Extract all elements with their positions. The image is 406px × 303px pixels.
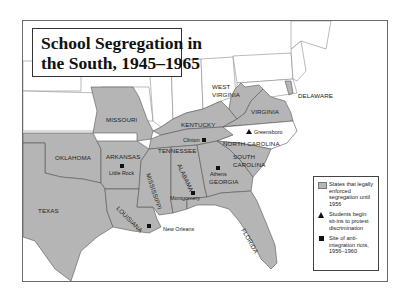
label-arkansas: ARKANSAS: [106, 153, 141, 160]
label-south-carolina-1: SOUTH: [233, 153, 255, 160]
triangle-icon: [318, 212, 324, 218]
city-montgomery: Montgomery: [170, 195, 200, 201]
legend-item-segregated: States that legally enforced segregation…: [318, 181, 375, 207]
label-georgia: GEORGIA: [209, 178, 239, 185]
city-little-rock: Little Rock: [109, 170, 134, 176]
label-virginia: VIRGINIA: [251, 108, 280, 115]
label-delaware: DELAWARE: [298, 92, 333, 99]
label-west-virginia-1: WEST: [212, 83, 230, 90]
gray-swatch-icon: [318, 182, 327, 189]
map-title: School Segregation in the South, 1945–19…: [32, 28, 182, 77]
title-line-2: the South, 1945–1965: [41, 53, 181, 73]
square-marker-icon: [216, 166, 220, 170]
label-oklahoma: OKLAHOMA: [55, 154, 92, 161]
label-north-carolina: NORTH CAROLINA: [223, 140, 280, 147]
label-kentucky: KENTUCKY: [181, 121, 216, 128]
map-legend: States that legally enforced segregation…: [313, 176, 379, 271]
legend-item-sit-ins: Students begin sit-ins to protest discri…: [318, 211, 375, 231]
title-line-1: School Segregation in: [41, 33, 181, 53]
label-west-virginia-2: VIRGINIA: [212, 91, 241, 98]
label-texas: TEXAS: [38, 207, 59, 214]
square-marker-icon: [120, 164, 124, 168]
legend-item-riots: Site of anti-integration riots, 1956–196…: [318, 235, 375, 255]
square-marker-icon: [147, 224, 151, 228]
label-tennessee: TENNESSEE: [158, 147, 196, 154]
square-icon: [319, 236, 324, 241]
label-south-carolina-2: CAROLINA: [233, 161, 266, 168]
legend-text-riots: Site of anti-integration riots, 1956–196…: [329, 235, 375, 255]
legend-text-sit-ins: Students begin sit-ins to protest discri…: [329, 211, 375, 231]
label-missouri: MISSOURI: [106, 116, 138, 123]
square-marker-icon: [202, 138, 206, 142]
city-athens: Athens: [210, 171, 227, 177]
city-new-orleans: New Orleans: [163, 226, 194, 232]
city-clinton: Clinton: [183, 137, 200, 143]
legend-text-segregated: States that legally enforced segregation…: [329, 181, 375, 207]
city-greensboro: Greensboro: [254, 129, 282, 135]
